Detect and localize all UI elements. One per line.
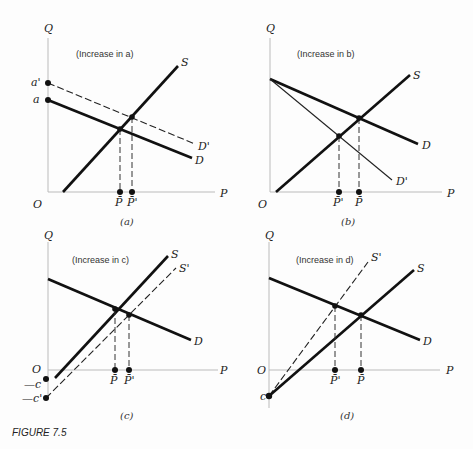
price-label-p-bar: P̄ — [114, 196, 123, 209]
p-axis-label: P — [219, 364, 228, 377]
panel-c: Q P O (Increase in c) —c —c' S S' D P̄ P… — [22, 229, 228, 421]
equilibrium-dot — [117, 126, 123, 132]
price-dot — [336, 189, 342, 195]
origin-label: O — [33, 198, 42, 211]
panel-caption: (b) — [341, 216, 355, 227]
price-dot — [129, 189, 135, 195]
equilibrium-dot — [336, 133, 342, 139]
price-label-p-bar: P̄ — [354, 196, 363, 209]
intercept-minus-c: —c — [24, 378, 41, 391]
panel-d: Q P O (Increase in d) c S' S D P̄' P̄ (d… — [257, 229, 454, 421]
equilibrium-dot — [129, 114, 135, 120]
price-label-p-bar: P̄ — [109, 374, 118, 387]
equilibrium-dot — [356, 115, 362, 121]
p-axis-label: P — [446, 187, 455, 200]
intercept-dot — [266, 393, 272, 399]
panel-caption: (c) — [120, 410, 134, 421]
price-dot — [356, 189, 362, 195]
q-axis-label: Q — [266, 22, 275, 35]
panel-title: (Increase in a) — [76, 49, 134, 59]
supply-curve-s-prime — [269, 262, 368, 396]
intercept-dot — [45, 80, 51, 86]
price-dot — [126, 367, 132, 373]
panel-caption: (a) — [120, 216, 134, 227]
intercept-dot — [45, 97, 51, 103]
curve-label-d: D — [194, 154, 204, 167]
price-dot — [332, 367, 338, 373]
curve-label-s: S — [181, 56, 189, 69]
p-axis-label: P — [445, 364, 454, 377]
curve-label-s: S — [413, 69, 421, 82]
intercept-c: c — [260, 390, 266, 403]
intercept-minus-c-prime: —c' — [22, 392, 42, 405]
q-axis-label: Q — [44, 22, 53, 35]
q-axis-label: Q — [44, 229, 53, 242]
panel-title: (Increase in d) — [296, 255, 354, 265]
price-label-p-bar-prime: P̄' — [126, 196, 137, 209]
curve-label-s-prime: S' — [371, 251, 382, 264]
equilibrium-dot — [358, 312, 364, 318]
curve-label-d: D — [193, 335, 203, 348]
panel-a: Q P O (Increase in a) a' a S D' D P̄ P̄'… — [31, 22, 228, 227]
equilibrium-dot — [126, 312, 132, 318]
panel-title: (Increase in b) — [297, 49, 355, 59]
price-dot — [358, 367, 364, 373]
price-dot — [117, 189, 123, 195]
panel-title: (Increase in c) — [72, 255, 129, 265]
price-label-p-bar-prime: P̄' — [332, 196, 343, 209]
intercept-dot — [43, 376, 49, 382]
curve-label-s-prime: S' — [179, 262, 190, 275]
price-dot — [112, 367, 118, 373]
origin-label: O — [257, 364, 266, 377]
curve-label-s: S — [417, 262, 425, 275]
panel-b: Q P O (Increase in b) S D D' P̄' P̄ (b) — [258, 22, 455, 227]
figure-7-5: Q P O (Increase in a) a' a S D' D P̄ P̄'… — [0, 0, 473, 449]
equilibrium-dot — [112, 306, 118, 312]
supply-curve-s — [276, 75, 410, 192]
supply-curve-s — [55, 256, 168, 378]
origin-label: O — [32, 363, 41, 376]
curve-label-d-prime: D' — [197, 140, 210, 153]
curve-label-s: S — [171, 248, 179, 261]
panel-caption: (d) — [340, 410, 354, 421]
equilibrium-dot — [332, 303, 338, 309]
supply-curve-s — [269, 270, 414, 396]
curve-label-d-prime: D' — [395, 175, 408, 188]
demand-curve-d-prime — [270, 79, 392, 180]
figure-label: FIGURE 7.5 — [12, 427, 67, 438]
demand-curve-d — [48, 279, 191, 340]
curve-label-d: D — [421, 139, 431, 152]
price-label-p-bar-prime: P̄' — [123, 374, 134, 387]
curve-label-d: D — [422, 335, 432, 348]
intercept-dot — [43, 395, 49, 401]
intercept-a-prime: a' — [31, 76, 41, 89]
origin-label: O — [258, 198, 267, 211]
price-label-p-bar-prime: P̄' — [329, 374, 340, 387]
price-label-p-bar: P̄ — [356, 374, 365, 387]
p-axis-label: P — [219, 187, 228, 200]
q-axis-label: Q — [265, 229, 274, 242]
intercept-a: a — [33, 93, 40, 106]
demand-curve-d-prime — [48, 83, 195, 144]
